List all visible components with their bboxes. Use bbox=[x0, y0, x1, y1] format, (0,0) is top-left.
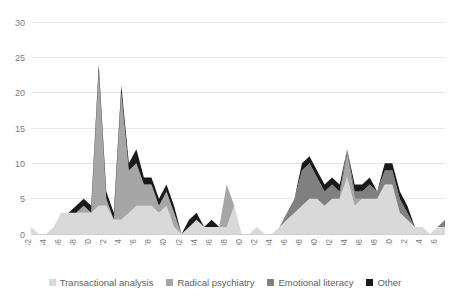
x-axis-tick-label: 2002 bbox=[324, 239, 334, 245]
y-axis-tick-label: 0 bbox=[20, 230, 25, 240]
x-axis-tick-label: 1970 bbox=[83, 239, 93, 245]
x-axis-tick-label: 1972 bbox=[98, 239, 108, 245]
plot-area: 051015202530 196219641966196819701972197… bbox=[0, 0, 450, 245]
legend-swatch-icon bbox=[267, 279, 274, 286]
chart-svg: 051015202530 196219641966196819701972197… bbox=[0, 0, 450, 245]
x-axis-tick-label: 2014 bbox=[414, 239, 424, 245]
x-axis-tick-label: 1994 bbox=[264, 239, 274, 245]
legend-item[interactable]: Other bbox=[366, 277, 401, 288]
legend-item[interactable]: Transactional analysis bbox=[49, 277, 154, 288]
legend-label: Radical psychiatry bbox=[177, 277, 254, 288]
legend-swatch-icon bbox=[49, 279, 56, 286]
x-axis-tick-label: 1992 bbox=[249, 239, 259, 245]
x-axis-tick-label: 2012 bbox=[399, 239, 409, 245]
x-axis-tick-label: 1966 bbox=[53, 239, 63, 245]
x-axis-tick-label: 2006 bbox=[354, 239, 364, 245]
x-axis-tick-label: 2008 bbox=[369, 239, 379, 245]
x-axis-labels: 1962196419661968197019721974197619781980… bbox=[23, 239, 439, 245]
legend-label: Other bbox=[377, 277, 401, 288]
y-axis-tick-label: 5 bbox=[20, 194, 25, 204]
legend-swatch-icon bbox=[366, 279, 373, 286]
x-axis-tick-label: 2000 bbox=[309, 239, 319, 245]
y-axis-tick-label: 15 bbox=[15, 124, 25, 134]
x-axis-tick-label: 1974 bbox=[113, 239, 123, 245]
legend-label: Emotional literacy bbox=[278, 277, 353, 288]
x-axis-tick-label: 1984 bbox=[189, 239, 199, 245]
x-axis-tick-label: 1996 bbox=[279, 239, 289, 245]
x-axis-tick-label: 2010 bbox=[384, 239, 394, 245]
x-axis-tick-label: 1980 bbox=[158, 239, 168, 245]
legend-label: Transactional analysis bbox=[60, 277, 154, 288]
x-axis-tick-label: 1998 bbox=[294, 239, 304, 245]
stacked-area-chart: 051015202530 196219641966196819701972197… bbox=[0, 0, 450, 301]
x-axis-tick-label: 2004 bbox=[339, 239, 349, 245]
y-axis-tick-label: 20 bbox=[15, 88, 25, 98]
x-axis-tick-label: 2016 bbox=[429, 239, 439, 245]
x-axis-tick-label: 1990 bbox=[234, 239, 244, 245]
legend-swatch-icon bbox=[166, 279, 173, 286]
legend-item[interactable]: Emotional literacy bbox=[267, 277, 353, 288]
x-axis-tick-label: 1988 bbox=[219, 239, 229, 245]
x-axis-tick-label: 1978 bbox=[143, 239, 153, 245]
x-axis-tick-label: 1976 bbox=[128, 239, 138, 245]
x-axis-tick-label: 1982 bbox=[174, 239, 184, 245]
series-areas bbox=[31, 64, 445, 234]
x-axis-tick-label: 1962 bbox=[23, 239, 33, 245]
y-axis-tick-label: 30 bbox=[15, 18, 25, 28]
x-axis-tick-label: 1968 bbox=[68, 239, 78, 245]
y-axis-tick-label: 10 bbox=[15, 159, 25, 169]
chart-legend: Transactional analysisRadical psychiatry… bbox=[0, 272, 450, 292]
y-axis-labels: 051015202530 bbox=[15, 18, 25, 240]
x-axis-tick-label: 1964 bbox=[38, 239, 48, 245]
y-axis-tick-label: 25 bbox=[15, 53, 25, 63]
legend-item[interactable]: Radical psychiatry bbox=[166, 277, 254, 288]
x-axis-tick-label: 1986 bbox=[204, 239, 214, 245]
